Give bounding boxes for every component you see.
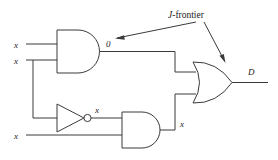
input-1-label: x [13, 40, 18, 50]
logic-circuit-figure: x x x 0 x x D J-frontier [0, 0, 278, 160]
inverter-1 [57, 104, 84, 132]
annotation-pointer-1-arrowhead [115, 35, 125, 40]
or-gate-1 [193, 62, 232, 103]
annotation-pointer-1-line [117, 22, 196, 38]
inverter-output-label: x [94, 105, 99, 115]
wire-branch-to-inverter [33, 60, 57, 118]
wire-and2-to-or [160, 94, 196, 130]
and-gate-2-output-label: x [179, 119, 184, 129]
j-frontier-label-rest: -frontier [172, 10, 204, 20]
and-gate-2 [122, 112, 160, 148]
wire-and1-to-or [100, 52, 197, 73]
and-gate-1 [57, 30, 100, 73]
annotation-pointer-2-line [204, 22, 224, 60]
circuit-output-label: D [247, 67, 255, 77]
and-gate-1-output-value: 0 [106, 39, 111, 49]
inverter-bubble-icon [84, 114, 91, 121]
circuit-canvas: x x x 0 x x D J-frontier [0, 0, 278, 160]
input-2-label: x [13, 56, 18, 66]
input-3-label: x [13, 131, 18, 141]
annotation-pointer-2-arrowhead [220, 54, 226, 63]
j-frontier-annotation-label: J-frontier [168, 10, 205, 20]
